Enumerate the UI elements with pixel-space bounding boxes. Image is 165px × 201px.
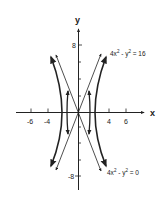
x-tick-label-neg4: -4: [44, 118, 50, 125]
equation-hyperbola: 4x2 - y2 = 16: [110, 49, 146, 58]
y-tick-label-8: 8: [72, 42, 76, 49]
x-tick-label-4: 4: [107, 118, 111, 125]
hyperbola-right-branch: [95, 57, 106, 166]
y-axis: [75, 29, 82, 190]
y-tick-label-neg8: -8: [68, 173, 74, 180]
y-axis-label: y: [75, 15, 80, 25]
equation-asymptotes: 4x2 - y2 = 0: [107, 168, 139, 177]
x-axis-label: x: [150, 108, 155, 118]
hyperbola-graph: -6 -4 4 6 8 -8 y x 4x2 - y2 = 16 4x2 - y…: [0, 0, 165, 201]
x-tick-label-6: 6: [124, 118, 128, 125]
hyperbola-left-branch: [51, 57, 62, 166]
x-tick-label-neg6: -6: [27, 118, 33, 125]
